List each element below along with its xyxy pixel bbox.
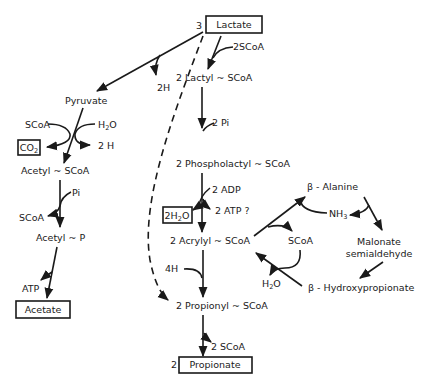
beta-alanine-label: β - Alanine <box>307 181 358 192</box>
arrow-scoa-release <box>268 226 292 231</box>
arrow-scoa-in-h2o-out <box>270 250 300 275</box>
cofactor-2atp: 2 ATP ? <box>215 205 249 216</box>
arrow-h2o-in-2h-out <box>75 124 95 145</box>
arrow-4h-input <box>184 269 202 278</box>
propionyl-scoa-label: 2 Propionyl ~ SCoA <box>176 300 268 311</box>
arrow-scoa-in-co2-out <box>47 124 70 147</box>
arrow-beta-alanine-to-malonate-semialdehyde <box>364 197 382 230</box>
cofactor-2scoa-top: 2SCoA <box>233 41 265 52</box>
arrow-nh3-release <box>350 205 369 215</box>
acetate-label: Acetate <box>25 304 62 315</box>
propionate-label: Propionate <box>190 359 241 370</box>
acetyl-p-label: Acetyl ~ P <box>36 232 85 243</box>
cofactor-scoa-acetyl: SCoA <box>19 212 44 223</box>
acetyl-scoa-label: Acetyl ~ SCoA <box>21 165 90 176</box>
cofactor-scoa-pyruvate: SCoA <box>25 119 50 130</box>
cofactor-h2o-cycle: H2O <box>262 278 281 291</box>
cofactor-2pi: 2 Pi <box>212 117 229 128</box>
propionate-fermentation-pathway-diagram: 3 Lactate 2H 2SCoA 2 Lactyl ~ SCoA 2 Pi … <box>0 0 421 391</box>
cofactor-scoa-cycle: SCoA <box>288 235 313 246</box>
cofactor-2h-top: 2H <box>157 82 170 93</box>
arrow-nh3-to-beta-alanine <box>300 200 327 213</box>
pyruvate-label: Pyruvate <box>65 95 107 106</box>
cofactor-atp-acetate: ATP <box>22 283 40 294</box>
cofactor-4h: 4H <box>165 263 178 274</box>
malonate-semialdehyde-label-line1: Malonate <box>357 236 401 247</box>
arrow-2atp-output <box>203 199 210 209</box>
arrow-lactate-to-lactyl-scoa <box>208 36 221 69</box>
lactyl-scoa-label: 2 Lactyl ~ SCoA <box>176 72 253 83</box>
cofactor-nh3: NH3 <box>329 208 347 221</box>
acrylyl-scoa-label: 2 Acrylyl ~ SCoA <box>170 235 251 246</box>
cofactor-h2o-pyruvate: H2O <box>98 119 117 132</box>
arrow-acrylyl-to-beta-alanine <box>254 197 305 236</box>
arrow-2scoa-output <box>204 333 211 342</box>
lactate-coefficient: 3 <box>196 20 202 31</box>
beta-hydroxypropionate-label: β - Hydroxypropionate <box>308 282 414 293</box>
propionate-coefficient: 2 <box>171 359 177 370</box>
arrow-malonate-to-hydroxypropionate <box>360 262 383 278</box>
lactate-label: Lactate <box>216 19 252 30</box>
phospholactyl-scoa-label: 2 Phospholactyl ~ SCoA <box>176 158 291 169</box>
malonate-semialdehyde-label-line2: semialdehyde <box>346 248 413 259</box>
cofactor-2scoa-bottom: 2 SCoA <box>211 341 246 352</box>
cofactor-pi-acetyl: Pi <box>72 187 80 198</box>
cofactor-2adp: 2 ADP <box>212 184 241 195</box>
cofactor-2h-pyruvate: 2 H <box>98 140 114 151</box>
arrow-pyruvate-to-acetyl-scoa <box>64 108 83 163</box>
